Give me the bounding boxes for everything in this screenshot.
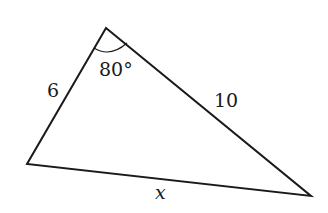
triangle-shape — [27, 28, 311, 196]
side-label-right: 10 — [214, 89, 238, 111]
triangle-figure: 80° 6 10 x — [0, 0, 328, 213]
angle-arc — [94, 43, 127, 52]
side-label-bottom: x — [155, 181, 166, 203]
side-label-left: 6 — [47, 79, 59, 101]
angle-label-top: 80° — [99, 58, 133, 80]
triangle-diagram: 80° 6 10 x — [0, 0, 328, 213]
